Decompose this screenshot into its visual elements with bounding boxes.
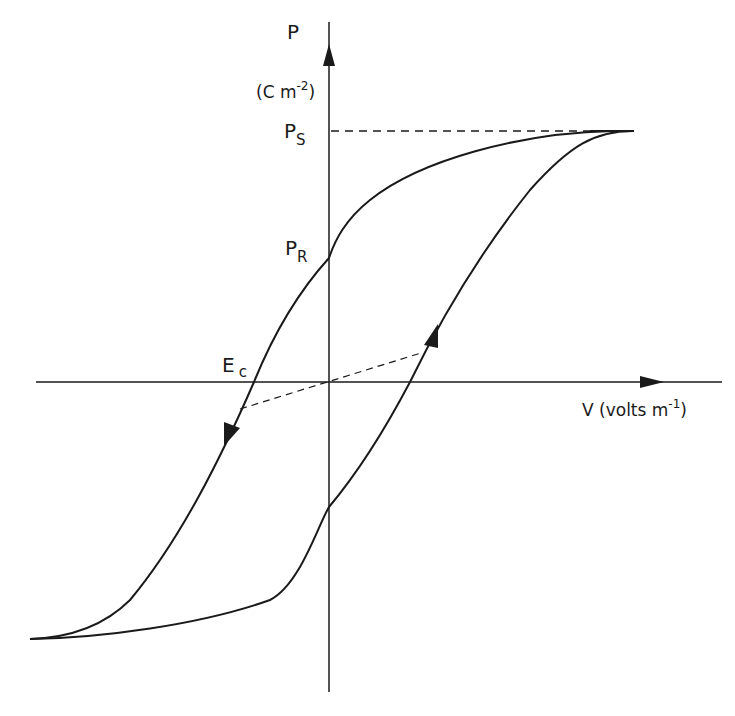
ps-label: PS [284, 119, 306, 149]
y-axis-arrow-icon [323, 44, 335, 66]
ascending-branch [30, 131, 633, 639]
initial-dashed-line [240, 353, 421, 409]
descending-branch [30, 131, 612, 639]
x-axis-arrow-icon [640, 376, 664, 388]
ec-label: Ec [222, 353, 247, 381]
y-axis-unit: (C m-2) [256, 79, 315, 102]
hysteresis-diagram: P (C m-2) PS PR Ec V (volts m-1) [0, 0, 735, 716]
pr-label: PR [285, 236, 308, 266]
x-axis-label: V (volts m-1) [582, 397, 687, 420]
up-arrow-icon [424, 324, 438, 348]
y-axis-symbol: P [287, 20, 299, 44]
down-arrow-icon [224, 422, 240, 446]
